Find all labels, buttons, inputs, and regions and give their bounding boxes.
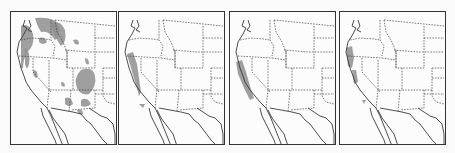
map-panel-1 — [10, 11, 117, 145]
western-us-map — [340, 12, 446, 145]
range-shading — [346, 46, 366, 104]
map-panel-3 — [229, 11, 336, 145]
map-panel-2 — [118, 11, 225, 145]
range-shading — [236, 60, 254, 100]
range-shading — [21, 18, 95, 115]
western-us-map — [11, 12, 117, 145]
map-panel-4 — [339, 11, 446, 145]
western-us-map — [230, 12, 336, 145]
range-shading — [127, 52, 145, 108]
western-us-map — [119, 12, 225, 145]
